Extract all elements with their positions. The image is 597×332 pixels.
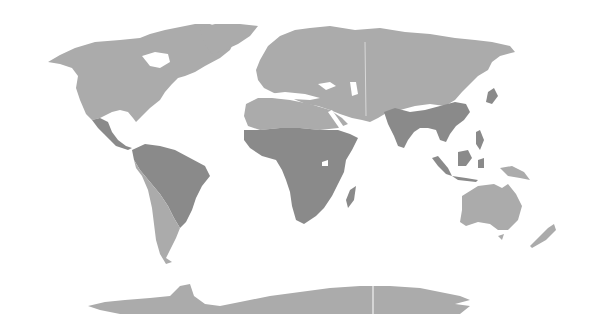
region-mexico-central-america: [92, 118, 132, 150]
region-japan: [486, 88, 498, 104]
region-sub-saharan-africa: [244, 128, 358, 224]
region-new-guinea: [500, 166, 530, 180]
world-map: [0, 0, 597, 332]
region-australia: [460, 184, 522, 230]
region-south-and-southeast-asia: [384, 102, 470, 148]
region-borneo: [458, 150, 472, 166]
region-sumatra: [432, 156, 452, 176]
region-tasmania: [498, 234, 504, 240]
region-madagascar: [346, 186, 356, 208]
region-antarctica: [88, 284, 470, 314]
region-java: [452, 176, 478, 182]
region-philippines: [476, 130, 484, 150]
region-new-zealand: [530, 224, 556, 248]
region-sulawesi: [478, 158, 484, 168]
